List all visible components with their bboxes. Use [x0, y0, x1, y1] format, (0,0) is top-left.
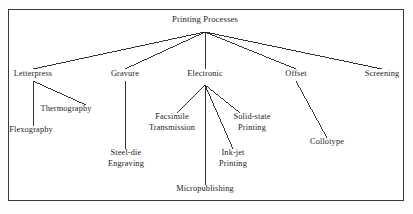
- diagram-canvas: Printing ProcessesLetterpressGravureElec…: [0, 0, 413, 214]
- node-ink-jet-line-2: Printing: [219, 159, 247, 170]
- node-offset-line-1: Offset: [285, 69, 306, 80]
- node-gravure: Gravure: [111, 69, 139, 80]
- node-collotype: Collotype: [310, 137, 344, 148]
- node-facsimile: FacsimileTransmission: [149, 112, 195, 133]
- node-offset: Offset: [285, 69, 306, 80]
- node-root: Printing Processes: [172, 14, 238, 25]
- node-screening: Screening: [365, 69, 400, 80]
- node-solid-state-line-1: Solid-state: [233, 112, 270, 123]
- node-thermography: Thermography: [40, 104, 91, 115]
- node-screening-line-1: Screening: [365, 69, 400, 80]
- node-flexography-line-1: Flexography: [9, 125, 53, 136]
- node-solid-state: Solid-statePrinting: [233, 112, 270, 133]
- node-ink-jet-line-1: Ink-jet: [219, 148, 247, 159]
- node-micropublishing: Micropublishing: [176, 184, 234, 195]
- node-root-line-1: Printing Processes: [172, 14, 238, 25]
- node-steel-die-line-2: Engraving: [108, 159, 144, 170]
- node-facsimile-line-1: Facsimile: [149, 112, 195, 123]
- node-letterpress-line-1: Letterpress: [14, 69, 53, 80]
- node-facsimile-line-2: Transmission: [149, 123, 195, 134]
- node-letterpress: Letterpress: [14, 69, 53, 80]
- node-steel-die-line-1: Steel-die: [108, 148, 144, 159]
- node-thermography-line-1: Thermography: [40, 104, 91, 115]
- node-flexography: Flexography: [9, 125, 53, 136]
- node-steel-die: Steel-dieEngraving: [108, 148, 144, 169]
- node-gravure-line-1: Gravure: [111, 69, 139, 80]
- node-ink-jet: Ink-jetPrinting: [219, 148, 247, 169]
- node-electronic: Electronic: [187, 69, 223, 80]
- node-electronic-line-1: Electronic: [187, 69, 223, 80]
- node-micropublishing-line-1: Micropublishing: [176, 184, 234, 195]
- node-collotype-line-1: Collotype: [310, 137, 344, 148]
- node-solid-state-line-2: Printing: [233, 123, 270, 134]
